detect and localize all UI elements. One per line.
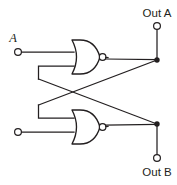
output-a-terminal[interactable] — [154, 23, 161, 30]
wire-cross-coupling-b-to-a — [39, 79, 158, 124]
nor-gate-top-inversion-bubble — [99, 54, 106, 61]
wire-top-gate-feedback-in — [39, 66, 75, 79]
nor-gate-bottom — [72, 110, 108, 144]
nor-gate-top — [72, 40, 108, 74]
output-a-label: Out A — [143, 7, 172, 19]
input-a-terminal[interactable] — [15, 49, 22, 56]
nor-gate-top-body — [72, 40, 100, 74]
junction-dot-out-b — [154, 121, 159, 126]
wire-bottom-gate-feedback-in — [39, 105, 75, 118]
output-b-label: Out B — [142, 166, 172, 178]
input-a-label: A — [8, 31, 17, 45]
input-b-terminal[interactable] — [15, 129, 22, 136]
circuit-canvas: A Out A Out B — [0, 0, 177, 185]
nor-gate-bottom-body — [72, 110, 100, 144]
circuit-diagram: A Out A Out B — [0, 0, 177, 185]
wire-top-gate-output — [105, 59, 157, 60]
wire-cross-coupling-a-to-b — [39, 60, 158, 105]
wire-bottom-gate-output — [105, 125, 157, 126]
output-b-terminal[interactable] — [154, 155, 161, 162]
junction-dot-out-a — [154, 57, 159, 62]
nor-gate-bottom-inversion-bubble — [99, 124, 106, 131]
